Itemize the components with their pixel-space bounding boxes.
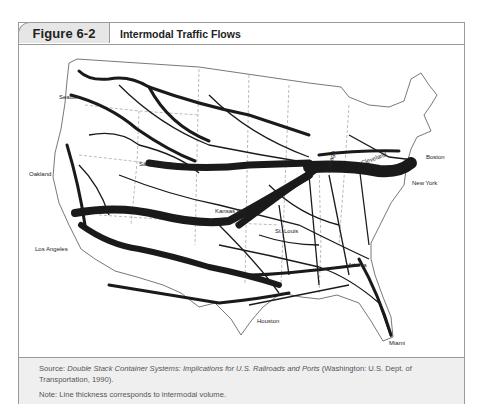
figure-note: Note: Line thickness corresponds to inte… (39, 389, 450, 400)
city-seattle: Seattle (59, 94, 78, 100)
city-houston: Houston (257, 318, 279, 324)
city-st-louis: St. Louis (275, 228, 298, 234)
figure-footer: Source: Double Stack Container Systems: … (19, 357, 464, 404)
city-los-angeles: Los Angeles (35, 246, 68, 252)
source-title: Double Stack Container Systems: Implicat… (67, 364, 319, 373)
city-oakland: Oakland (29, 171, 51, 177)
city-miami: Miami (389, 340, 405, 346)
city-cleveland: Cleveland (360, 151, 387, 166)
source-citation: Source: Double Stack Container Systems: … (39, 363, 450, 385)
figure-header: Figure 6-2 Intermodal Traffic Flows (19, 23, 464, 45)
figure-box: Figure 6-2 Intermodal Traffic Flows (18, 22, 465, 404)
city-atlanta: Atlanta (348, 262, 367, 268)
city-salt-lake-city: Salt Lake City (139, 161, 176, 167)
city-kansas-city: Kansas City (215, 208, 247, 214)
figure-title: Intermodal Traffic Flows (110, 23, 241, 44)
city-new-york: New York (412, 180, 438, 186)
source-label: Source: (39, 364, 67, 373)
us-traffic-map: Seattle Oakland Salt Lake City Los Angel… (19, 45, 464, 357)
figure-number: Figure 6-2 (18, 22, 110, 43)
city-boston: Boston (426, 154, 445, 160)
